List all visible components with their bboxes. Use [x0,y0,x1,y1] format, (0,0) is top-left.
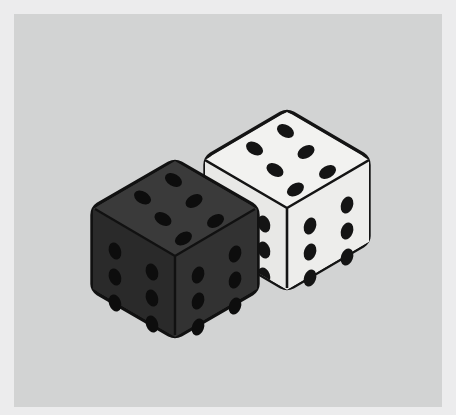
dice-artwork [0,0,456,415]
dice-illustration-scene [0,0,456,415]
